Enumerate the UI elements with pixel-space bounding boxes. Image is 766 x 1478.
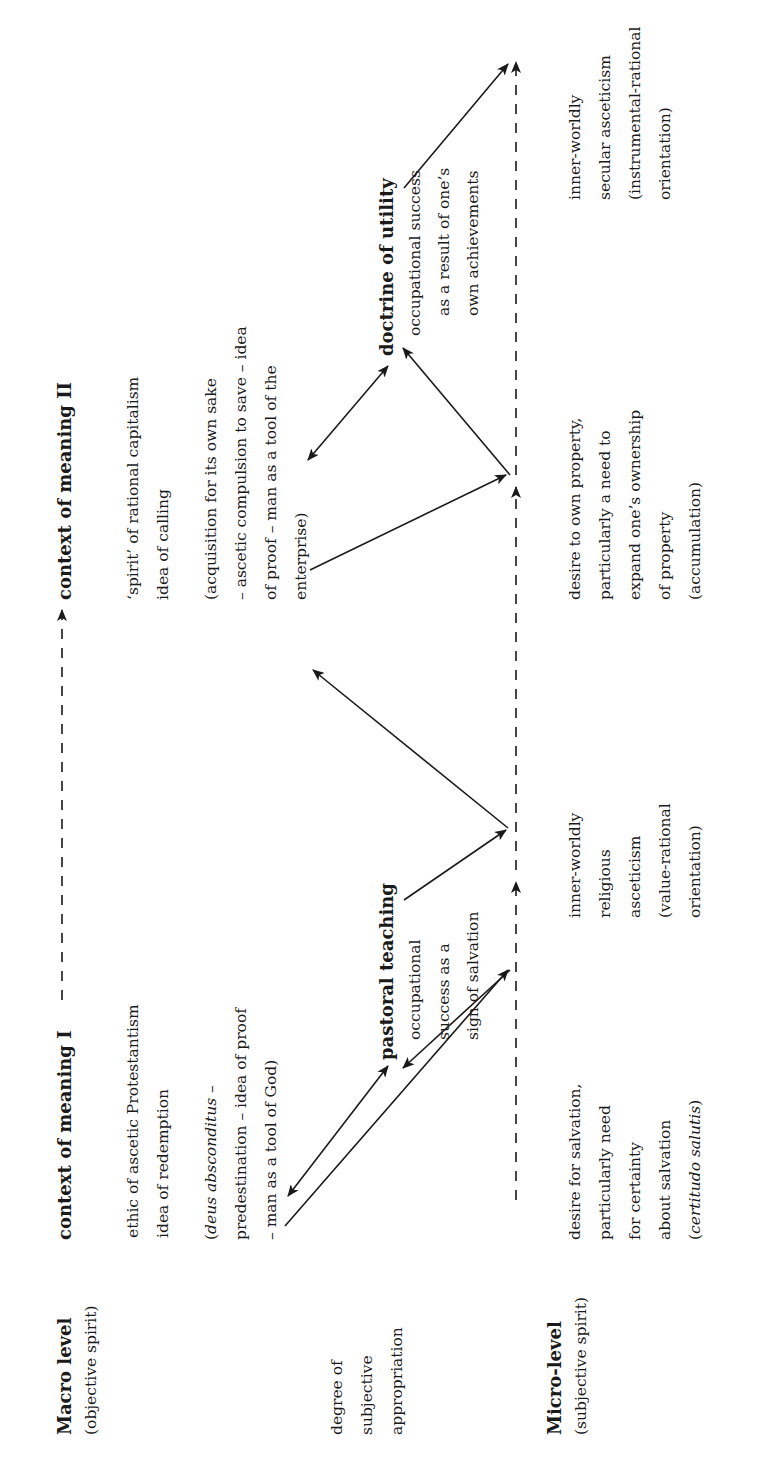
micro-item-property: desire to own property, particularly a n… [560, 410, 710, 600]
micro-item-salvation: desire for salvation, particularly need … [560, 1084, 710, 1241]
macro-level-label: Macro level (objective spirit) [50, 1306, 102, 1435]
micro-item-religious-asceticism: inner-worldly religious asceticism (valu… [560, 803, 710, 918]
context-1-description: ethic of ascetic Protestantism idea of r… [118, 1004, 178, 1238]
double-arrow-ctxI-pastoral [288, 1066, 388, 1196]
arrow-micro2-to-enterprise [313, 670, 508, 828]
micro-item-secular-asceticism: inner-worldly secular asceticism (instru… [560, 27, 680, 200]
context-of-meaning-1: context of meaning I [50, 1030, 80, 1240]
doctrine-of-utility: doctrine of utility occupational success… [372, 168, 488, 356]
micro-level-label: Micro-level (subjective spirit) [540, 1297, 592, 1435]
context-of-meaning-2: context of meaning II [50, 382, 80, 600]
context-1-detail: (deus absconditus – predestination – ide… [196, 1008, 286, 1240]
double-arrow-enterprise-utility [308, 366, 388, 460]
pastoral-teaching: pastoral teaching occupational success a… [372, 883, 488, 1060]
weber-diagram: Macro level (objective spirit) degree of… [0, 0, 766, 1478]
subjective-appropriation-label: degree of subjective appropriation [322, 1327, 412, 1435]
arrow-micro3-to-utility [403, 348, 510, 475]
arrow-enterprise-to-micro3 [310, 475, 506, 570]
context-2-description: ‘spirit’ of rational capitalism idea of … [118, 377, 178, 600]
context-2-detail: (acquisition for its own sake – ascetic … [196, 326, 316, 600]
